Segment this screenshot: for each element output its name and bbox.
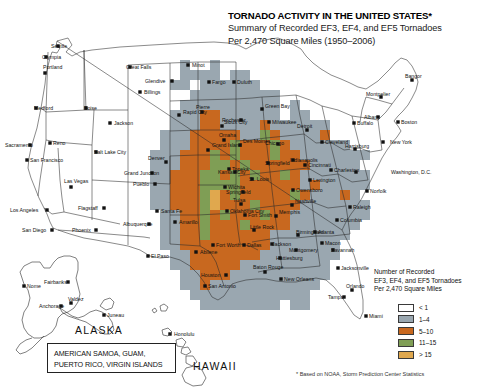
grid-cell bbox=[210, 120, 220, 130]
grid-cell bbox=[210, 230, 220, 240]
city-label: Abilene bbox=[200, 249, 217, 255]
grid-cell bbox=[150, 190, 160, 200]
grid-cell bbox=[300, 110, 310, 120]
city-label: Valdez bbox=[68, 296, 84, 302]
city-label: Washington, D.C. bbox=[391, 169, 431, 175]
grid-cell bbox=[190, 160, 200, 170]
city-label: Nome bbox=[27, 283, 41, 289]
city-label: Raleigh bbox=[353, 204, 371, 210]
grid-cell bbox=[250, 150, 260, 160]
source-footnote: * Based on NOAA, Storm Prediction Center… bbox=[296, 371, 424, 377]
grid-cell bbox=[270, 300, 280, 310]
city-marker-dot bbox=[224, 273, 227, 276]
city-marker-dot bbox=[396, 120, 399, 123]
map-title-block: TORNADO ACTIVITY IN THE UNITED STATES* S… bbox=[228, 10, 474, 47]
city-label: Omaha bbox=[219, 132, 236, 138]
grid-cell bbox=[280, 190, 290, 200]
grid-cell bbox=[280, 170, 290, 180]
city-marker-dot bbox=[25, 158, 28, 161]
city-label: Pierre bbox=[196, 104, 210, 110]
city-marker-dot bbox=[336, 266, 339, 269]
grid-cell bbox=[170, 170, 180, 180]
city-label: Montgomery bbox=[289, 247, 318, 253]
grid-cell bbox=[170, 190, 180, 200]
legend-title-line-2: EF3, EF4, and EF5 Tornadoes bbox=[374, 277, 474, 286]
grid-cell bbox=[160, 220, 170, 230]
city-label: Savannah bbox=[331, 247, 354, 253]
city-label: Fargo bbox=[212, 79, 226, 85]
city-marker-dot bbox=[206, 148, 209, 151]
legend-item[interactable]: < 1 bbox=[398, 303, 474, 313]
grid-cell bbox=[250, 110, 260, 120]
legend-color-swatch bbox=[398, 315, 414, 323]
grid-cell bbox=[200, 220, 210, 230]
grid-cell bbox=[180, 70, 190, 80]
city-label: Atlanta bbox=[318, 229, 334, 235]
legend-item-label: 5–10 bbox=[419, 328, 433, 335]
grid-cell bbox=[280, 230, 290, 240]
grid-cell bbox=[220, 100, 230, 110]
grid-cell bbox=[190, 280, 200, 290]
grid-cell bbox=[240, 280, 250, 290]
grid-cell bbox=[240, 300, 250, 310]
city-label: Honolulu bbox=[174, 331, 195, 337]
city-label: Owensboro bbox=[296, 187, 323, 193]
city-label: Billings bbox=[144, 89, 161, 95]
grid-cell bbox=[260, 280, 270, 290]
city-label: Minot bbox=[192, 62, 205, 68]
city-marker-dot bbox=[242, 243, 245, 246]
grid-cell bbox=[240, 260, 250, 270]
grid-cell bbox=[340, 150, 350, 160]
grid-cell bbox=[200, 300, 210, 310]
grid-cell bbox=[290, 170, 300, 180]
grid-cell bbox=[250, 270, 260, 280]
legend-color-swatch bbox=[398, 351, 414, 359]
grid-cell bbox=[170, 260, 180, 270]
grid-cell bbox=[190, 90, 200, 100]
city-label: Nashville bbox=[295, 198, 316, 204]
legend-item[interactable]: 1–4 bbox=[398, 315, 474, 325]
legend-item-label: > 15 bbox=[419, 351, 432, 358]
city-marker-dot bbox=[108, 121, 111, 124]
grid-cell bbox=[320, 120, 330, 130]
grid-cell bbox=[160, 180, 170, 190]
city-marker-dot bbox=[313, 230, 316, 233]
city-marker-dot bbox=[153, 182, 156, 185]
grid-cell bbox=[300, 300, 310, 310]
page-subtitle-line-2: Per 2,470 Square Miles (1950–2006) bbox=[228, 35, 474, 48]
city-label: New Orleans bbox=[284, 276, 314, 282]
grid-cell bbox=[310, 140, 320, 150]
city-label: Boise bbox=[84, 105, 97, 111]
city-label: Tampa bbox=[328, 294, 344, 300]
grid-cell bbox=[200, 200, 210, 210]
grid-cell bbox=[250, 190, 260, 200]
grid-cell bbox=[190, 200, 200, 210]
grid-cell bbox=[240, 150, 250, 160]
grid-cell bbox=[230, 250, 240, 260]
city-marker-dot bbox=[50, 228, 53, 231]
territories-line-1: AMERICAN SAMOA, GUAM, bbox=[48, 344, 175, 359]
grid-cell bbox=[240, 290, 250, 300]
city-label: Grand Junction bbox=[124, 170, 159, 176]
legend-item[interactable]: 5–10 bbox=[398, 326, 474, 336]
city-label: Boston bbox=[401, 119, 417, 125]
city-label: Albany bbox=[364, 114, 380, 120]
legend-item[interactable]: > 15 bbox=[398, 350, 474, 360]
city-marker-dot bbox=[222, 138, 225, 141]
tornado-frequency-grid bbox=[150, 60, 370, 310]
city-label: Reno bbox=[53, 140, 66, 146]
grid-cell bbox=[170, 140, 180, 150]
city-label: Duluth bbox=[237, 79, 252, 85]
grid-cell bbox=[200, 290, 210, 300]
city-label: Seattle bbox=[51, 43, 67, 49]
city-marker-dot bbox=[354, 170, 357, 173]
legend-item[interactable]: 11–15 bbox=[398, 338, 474, 348]
city-label: Cincinnati bbox=[308, 162, 331, 168]
city-marker-dot bbox=[364, 314, 367, 317]
grid-cell bbox=[180, 140, 190, 150]
grid-cell bbox=[340, 190, 350, 200]
grid-cell bbox=[220, 230, 230, 240]
grid-cell bbox=[160, 170, 170, 180]
grid-cell bbox=[200, 170, 210, 180]
grid-cell bbox=[230, 300, 240, 310]
